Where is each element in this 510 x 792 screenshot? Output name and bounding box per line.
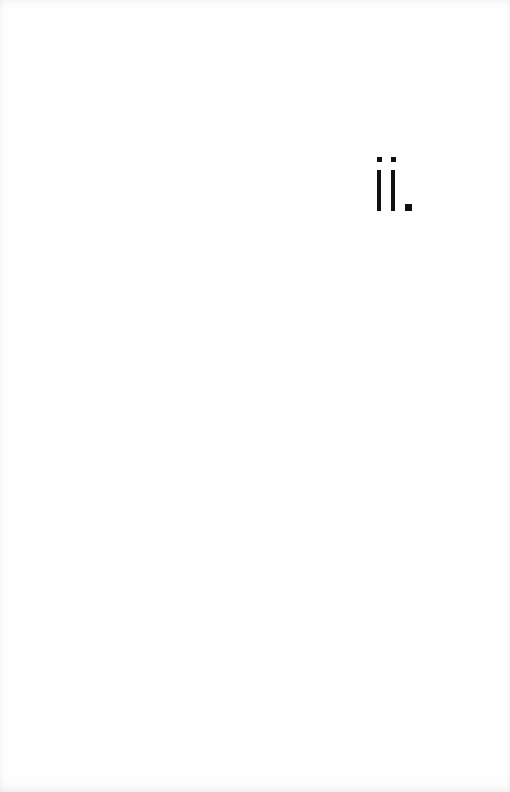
book-page: ii. (0, 0, 510, 792)
section-numeral: ii. (377, 157, 413, 213)
